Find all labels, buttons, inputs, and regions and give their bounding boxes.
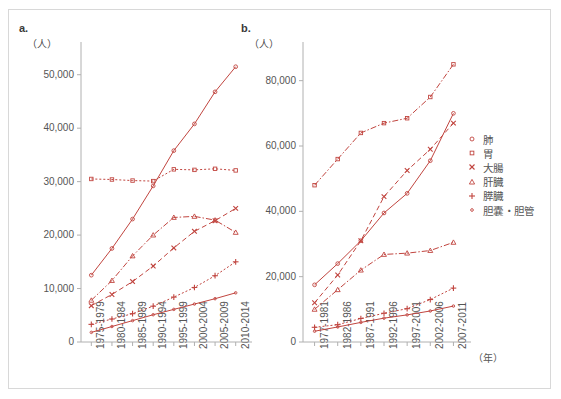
chart-legend: 肺胃大腸肝臓膵臓胆嚢・胆管: [464, 132, 535, 217]
legend-item-pancreas[interactable]: 膵臓: [464, 189, 535, 203]
figure-frame: a.（人）010,00020,00030,00040,00050,0001975…: [8, 9, 551, 389]
legend-item-gallbladder[interactable]: 胆嚢・胆管: [464, 203, 535, 217]
legend-item-stomach[interactable]: 胃: [464, 146, 535, 160]
chart-panel-a: a.（人）010,00020,00030,00040,00050,0001975…: [19, 22, 254, 382]
plus-marker: [464, 189, 480, 203]
circle-marker: [464, 132, 480, 146]
legend-label: 肺: [483, 132, 493, 147]
series-膵臓: [312, 285, 457, 330]
triangle-marker: [464, 175, 480, 189]
plot-area-b: [241, 22, 486, 382]
small-circle-marker: [464, 203, 480, 217]
series-大腸: [89, 206, 238, 308]
legend-label: 胃: [483, 146, 493, 161]
series-胆嚢・胆管: [90, 292, 237, 334]
series-肺: [313, 111, 456, 286]
series-肝臓: [89, 214, 238, 302]
legend-label: 肝臓: [483, 174, 504, 189]
square-marker: [464, 146, 480, 160]
legend-label: 大腸: [483, 160, 504, 175]
legend-item-liver[interactable]: 肝臓: [464, 175, 535, 189]
series-肝臓: [312, 240, 456, 311]
legend-label: 胆嚢・胆管: [483, 203, 535, 218]
legend-item-colon[interactable]: 大腸: [464, 160, 535, 174]
plot-area-a: [19, 22, 254, 382]
cross-marker: [464, 160, 480, 174]
legend-label: 膵臓: [483, 188, 504, 203]
legend-item-lung[interactable]: 肺: [464, 132, 535, 146]
series-胃: [90, 167, 238, 183]
series-胆嚢・胆管: [313, 305, 454, 333]
chart-panel-b: b.（人）020,00040,00060,00080,0001977-19811…: [241, 22, 486, 382]
series-胃: [313, 63, 455, 187]
